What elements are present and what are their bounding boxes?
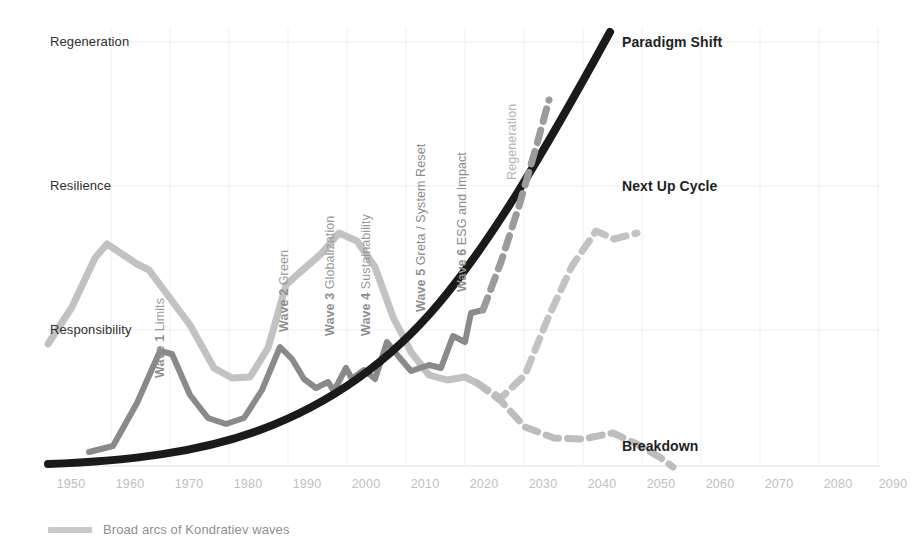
- annotation-wave-6-rest: ESG and Impact: [455, 152, 469, 249]
- annotation-wave-3-rest: Globalization: [323, 216, 337, 293]
- annotation-wave-6: Wave 6 ESG and Impact: [455, 152, 469, 292]
- legend-label-kondratiev-waves: Broad arcs of Kondratiev waves: [103, 522, 290, 537]
- y-axis-label-responsibility: Responsibility: [50, 323, 132, 336]
- x-tick-2080: 2080: [824, 477, 853, 491]
- series-kondratiev-waves: [48, 233, 477, 383]
- x-tick-1980: 1980: [234, 477, 263, 491]
- x-tick-2070: 2070: [765, 477, 794, 491]
- annotation-wave-5-rest: Greta / System Reset: [414, 144, 428, 269]
- annotation-wave-6-bold: Wave 6: [455, 249, 469, 292]
- x-tick-2090: 2090: [879, 477, 908, 491]
- x-tick-1970: 1970: [175, 477, 204, 491]
- x-tick-2050: 2050: [647, 477, 676, 491]
- y-axis-label-resilience: Resilience: [50, 179, 111, 192]
- annotation-wave-3-bold: Wave 3: [323, 293, 337, 336]
- annotation-wave-1: Wave 1 Limits: [153, 298, 167, 378]
- annotation-wave-2-rest: Green: [277, 250, 291, 289]
- x-tick-1950: 1950: [57, 477, 86, 491]
- annotation-wave-4-rest: Sustainability: [359, 214, 373, 293]
- annotation-wave-2: Wave 2 Green: [277, 250, 291, 332]
- annotation-wave-2-bold: Wave 2: [277, 289, 291, 332]
- x-tick-2000: 2000: [352, 477, 381, 491]
- y-axis-label-regeneration: Regeneration: [50, 35, 129, 48]
- x-tick-1990: 1990: [293, 477, 322, 491]
- x-tick-2020: 2020: [470, 477, 499, 491]
- x-tick-1960: 1960: [116, 477, 145, 491]
- end-label-paradigm-shift: Paradigm Shift: [622, 35, 722, 49]
- annotation-regeneration-branch: Regeneration: [505, 104, 519, 180]
- x-tick-2010: 2010: [411, 477, 440, 491]
- annotation-wave-3: Wave 3 Globalization: [323, 216, 337, 336]
- x-tick-2030: 2030: [529, 477, 558, 491]
- annotation-regeneration-rest: Regeneration: [505, 104, 519, 180]
- annotation-wave-4: Wave 4 Sustainability: [359, 214, 373, 336]
- x-tick-2040: 2040: [588, 477, 617, 491]
- annotation-wave-5: Wave 5 Greta / System Reset: [414, 144, 428, 312]
- end-label-breakdown: Breakdown: [622, 439, 698, 453]
- annotation-wave-1-bold: Wave 1: [153, 335, 167, 378]
- legend-swatch-kondratiev-waves: [48, 527, 92, 533]
- chart-legend: Broad arcs of Kondratiev waves: [48, 522, 290, 537]
- annotation-wave-5-bold: Wave 5: [414, 269, 428, 312]
- kondratiev-waves-chart: Regeneration Resilience Responsibility 1…: [0, 0, 922, 557]
- annotation-wave-1-rest: Limits: [153, 298, 167, 335]
- x-tick-2060: 2060: [706, 477, 735, 491]
- end-label-next-up-cycle: Next Up Cycle: [622, 179, 717, 193]
- annotation-wave-4-bold: Wave 4: [359, 293, 373, 336]
